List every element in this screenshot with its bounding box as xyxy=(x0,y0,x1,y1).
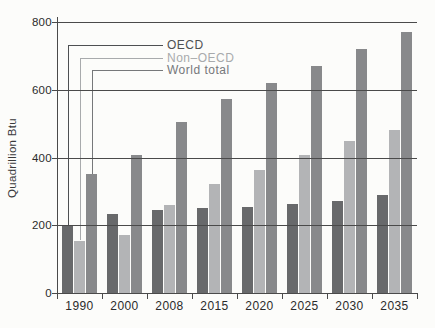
bar-oecd-2035 xyxy=(377,195,388,293)
x-tick-8 xyxy=(417,294,418,299)
bar-non-oecd-2025 xyxy=(299,155,310,293)
bar-non-oecd-2015 xyxy=(209,184,220,293)
x-tick-3 xyxy=(192,294,193,299)
bar-non-oecd-2008 xyxy=(164,205,175,293)
x-tick-5 xyxy=(282,294,283,299)
bar-oecd-2030 xyxy=(332,201,343,293)
bar-world-total-2035 xyxy=(401,32,412,293)
bar-world-total-2015 xyxy=(221,99,232,293)
y-tick-200 xyxy=(52,225,57,226)
bar-non-oecd-2030 xyxy=(344,141,355,293)
bar-non-oecd-2035 xyxy=(389,130,400,293)
x-tick-0 xyxy=(57,294,58,299)
x-tick-6 xyxy=(327,294,328,299)
legend-leader-vertical-1 xyxy=(80,58,81,241)
y-tick-label-0: 0 xyxy=(18,287,52,299)
x-tick-4 xyxy=(237,294,238,299)
y-axis-line xyxy=(57,17,58,293)
x-tick-2 xyxy=(147,294,148,299)
gridline-200 xyxy=(57,225,417,226)
y-tick-800 xyxy=(52,22,57,23)
y-tick-label-400: 400 xyxy=(18,152,52,164)
y-tick-label-200: 200 xyxy=(18,219,52,231)
x-tick-1 xyxy=(102,294,103,299)
x-tick-label-2008: 2008 xyxy=(147,299,192,313)
bar-world-total-1990 xyxy=(86,174,97,293)
x-tick-label-2000: 2000 xyxy=(102,299,147,313)
gridline-800 xyxy=(57,22,417,23)
bar-non-oecd-2020 xyxy=(254,170,265,293)
bar-world-total-2025 xyxy=(311,66,322,293)
x-tick-label-2035: 2035 xyxy=(372,299,417,313)
bar-non-oecd-1990 xyxy=(74,241,85,294)
y-tick-400 xyxy=(52,158,57,159)
bar-oecd-2025 xyxy=(287,204,298,293)
x-tick-label-2020: 2020 xyxy=(237,299,282,313)
gridline-400 xyxy=(57,158,417,159)
bar-oecd-2008 xyxy=(152,210,163,293)
gridline-600 xyxy=(57,90,417,91)
x-tick-label-1990: 1990 xyxy=(57,299,102,313)
legend-label-world-total: World total xyxy=(167,64,230,77)
bar-non-oecd-2000 xyxy=(119,235,130,293)
legend-leader-horizontal-2 xyxy=(92,70,164,71)
y-tick-600 xyxy=(52,90,57,91)
bar-oecd-2020 xyxy=(242,207,253,293)
x-tick-label-2015: 2015 xyxy=(192,299,237,313)
y-tick-label-800: 800 xyxy=(18,16,52,28)
bar-world-total-2008 xyxy=(176,122,187,293)
bar-oecd-2015 xyxy=(197,208,208,293)
legend-leader-horizontal-1 xyxy=(80,58,164,59)
y-tick-label-600: 600 xyxy=(18,84,52,96)
bar-oecd-1990 xyxy=(62,226,73,293)
x-tick-label-2025: 2025 xyxy=(282,299,327,313)
bar-world-total-2020 xyxy=(266,83,277,293)
energy-consumption-bar-chart: Quadrillion Btu OECD Non–OECD World tota… xyxy=(0,0,435,328)
legend-leader-vertical-0 xyxy=(68,45,69,226)
bar-world-total-2030 xyxy=(356,49,367,293)
legend-leader-horizontal-0 xyxy=(68,45,164,46)
x-tick-7 xyxy=(372,294,373,299)
bar-world-total-2000 xyxy=(131,155,142,293)
x-tick-label-2030: 2030 xyxy=(327,299,372,313)
plot-area xyxy=(57,22,417,293)
